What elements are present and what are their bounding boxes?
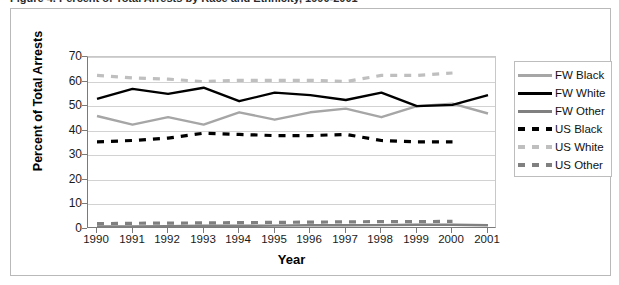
y-tick-label: 20: [52, 173, 82, 185]
x-tick-mark: [451, 228, 452, 233]
x-tick-label: 1992: [147, 232, 187, 246]
x-axis-title: Year: [87, 252, 496, 267]
legend-item[interactable]: FW Black: [518, 66, 608, 84]
x-tick-label: 1999: [396, 232, 436, 246]
x-tick-mark: [274, 228, 275, 233]
legend-swatch-icon: [518, 110, 552, 113]
x-tick-mark: [238, 228, 239, 233]
legend-item[interactable]: FW White: [518, 84, 608, 102]
x-tick-mark: [203, 228, 204, 233]
chart-legend: FW BlackFW WhiteFW OtherUS BlackUS White…: [514, 61, 612, 177]
series-line-us-other: [97, 221, 453, 223]
plot-area: [87, 56, 496, 228]
legend-item[interactable]: US Other: [518, 156, 608, 174]
x-tick-label: 1994: [218, 232, 258, 246]
legend-item[interactable]: US White: [518, 138, 608, 156]
x-tick-label: 1990: [76, 232, 116, 246]
x-tick-label: 1997: [325, 232, 365, 246]
series-line-fw-other: [97, 225, 488, 227]
legend-swatch-icon: [518, 163, 552, 167]
x-tick-mark: [345, 228, 346, 233]
y-tick-mark: [82, 179, 87, 180]
x-tick-mark: [96, 228, 97, 233]
legend-swatch-icon: [518, 127, 552, 131]
legend-label: FW White: [555, 87, 605, 99]
series-line-us-black: [97, 133, 453, 142]
legend-label: US Black: [555, 123, 602, 135]
y-tick-label: 70: [52, 50, 82, 62]
figure-root: Figure 4. Percent of Total Arrests by Ra…: [0, 0, 619, 285]
x-tick-mark: [416, 228, 417, 233]
chart-series-lines: [88, 57, 497, 229]
y-tick-mark: [82, 228, 87, 229]
x-tick-mark: [167, 228, 168, 233]
y-tick-label: 50: [52, 99, 82, 111]
y-tick-mark: [82, 56, 87, 57]
legend-label: US White: [555, 141, 604, 153]
y-axis-title: Percent of Total Arrests: [31, 11, 45, 191]
y-axis-tick-labels: 010203040506070: [49, 56, 82, 228]
x-tick-mark: [380, 228, 381, 233]
x-tick-label: 1993: [183, 232, 223, 246]
x-tick-label: 2001: [467, 232, 507, 246]
legend-item[interactable]: US Black: [518, 120, 608, 138]
y-tick-label: 10: [52, 197, 82, 209]
x-tick-mark: [487, 228, 488, 233]
y-tick-label: 40: [52, 124, 82, 136]
y-tick-label: 60: [52, 75, 82, 87]
x-tick-mark: [309, 228, 310, 233]
x-tick-label: 1998: [360, 232, 400, 246]
y-tick-mark: [82, 130, 87, 131]
y-tick-mark: [82, 105, 87, 106]
series-line-fw-white: [97, 88, 488, 106]
legend-swatch-icon: [518, 92, 552, 95]
x-axis-tick-labels: 1990199119921993199419951996199719981999…: [87, 232, 496, 248]
x-tick-label: 1991: [112, 232, 152, 246]
figure-caption: Figure 4. Percent of Total Arrests by Ra…: [10, 0, 610, 5]
series-line-us-white: [97, 73, 453, 82]
x-tick-label: 2000: [431, 232, 471, 246]
x-tick-label: 1996: [289, 232, 329, 246]
legend-label: US Other: [555, 159, 603, 171]
legend-label: FW Other: [555, 105, 605, 117]
legend-item[interactable]: FW Other: [518, 102, 608, 120]
x-tick-mark: [132, 228, 133, 233]
chart-frame: Percent of Total Arrests 010203040506070…: [10, 8, 611, 276]
y-tick-mark: [82, 203, 87, 204]
legend-label: FW Black: [555, 69, 604, 81]
y-tick-label: 30: [52, 148, 82, 160]
y-tick-mark: [82, 81, 87, 82]
legend-swatch-icon: [518, 145, 552, 149]
x-tick-label: 1995: [254, 232, 294, 246]
y-tick-mark: [82, 154, 87, 155]
legend-swatch-icon: [518, 74, 552, 77]
